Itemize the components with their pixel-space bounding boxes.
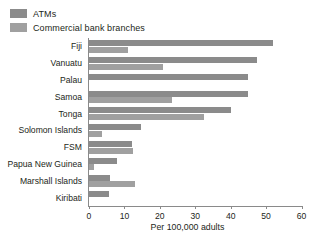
- legend-label-atms: ATMs: [33, 9, 56, 19]
- legend-swatch-atms: [10, 9, 27, 18]
- x-tick-mark: [266, 206, 267, 209]
- y-axis-line: [88, 38, 89, 206]
- x-tick-label: 20: [155, 211, 165, 221]
- bar-commercial-bank-branches: [89, 97, 172, 103]
- bar-atms: [89, 158, 117, 164]
- legend-label-commercial-bank-branches: Commercial bank branches: [33, 23, 145, 33]
- bar-commercial-bank-branches: [89, 164, 94, 170]
- x-tick-label: 40: [226, 211, 236, 221]
- bar-atms: [89, 141, 132, 147]
- category-label: Samoa: [55, 92, 82, 102]
- category-label: Marshall Islands: [20, 176, 82, 186]
- x-tick-label: 0: [87, 211, 92, 221]
- bar-commercial-bank-branches: [89, 148, 133, 154]
- x-axis-title: Per 100,000 adults: [0, 222, 315, 232]
- x-tick-mark: [160, 206, 161, 209]
- bar-atms: [89, 57, 257, 63]
- bar-atms: [89, 124, 141, 130]
- x-tick-mark: [231, 206, 232, 209]
- x-tick-label: 60: [297, 211, 307, 221]
- bar-atms: [89, 107, 231, 113]
- bar-atms: [89, 74, 248, 80]
- category-label: Fiji: [71, 41, 82, 51]
- x-tick-label: 10: [120, 211, 130, 221]
- x-tick-mark: [124, 206, 125, 209]
- bars-container: [89, 38, 302, 206]
- x-tick-mark: [302, 206, 303, 209]
- category-label: Vanuatu: [51, 58, 82, 68]
- category-label: FSM: [64, 142, 82, 152]
- x-tick-label: 30: [190, 211, 200, 221]
- x-tick-mark: [89, 206, 90, 209]
- bar-atms: [89, 91, 248, 97]
- category-axis-labels: FijiVanuatuPalauSamoaTongaSolomon Island…: [0, 38, 86, 206]
- plot-area: FijiVanuatuPalauSamoaTongaSolomon Island…: [0, 38, 315, 206]
- legend-swatch-commercial-bank-branches: [10, 23, 27, 32]
- bar-commercial-bank-branches: [89, 114, 204, 120]
- bar-commercial-bank-branches: [89, 181, 135, 187]
- bar-atms: [89, 40, 273, 46]
- x-tick-mark: [195, 206, 196, 209]
- category-label: Kiribati: [56, 193, 82, 203]
- legend-item-commercial-bank-branches: Commercial bank branches: [10, 22, 145, 33]
- bar-chart: ATMs Commercial bank branches FijiVanuat…: [0, 0, 315, 239]
- bar-commercial-bank-branches: [89, 131, 102, 137]
- category-label: Tonga: [59, 109, 82, 119]
- bar-commercial-bank-branches: [89, 64, 163, 70]
- category-label: Palau: [60, 75, 82, 85]
- x-tick-label: 50: [261, 211, 271, 221]
- bar-atms: [89, 191, 109, 197]
- legend-item-atms: ATMs: [10, 8, 145, 19]
- bar-atms: [89, 175, 110, 181]
- chart-legend: ATMs Commercial bank branches: [10, 8, 145, 33]
- category-label: Papua New Guinea: [7, 159, 82, 169]
- bar-commercial-bank-branches: [89, 47, 128, 53]
- category-label: Solomon Islands: [18, 125, 82, 135]
- x-axis-title-text: Per 100,000 adults: [91, 222, 225, 232]
